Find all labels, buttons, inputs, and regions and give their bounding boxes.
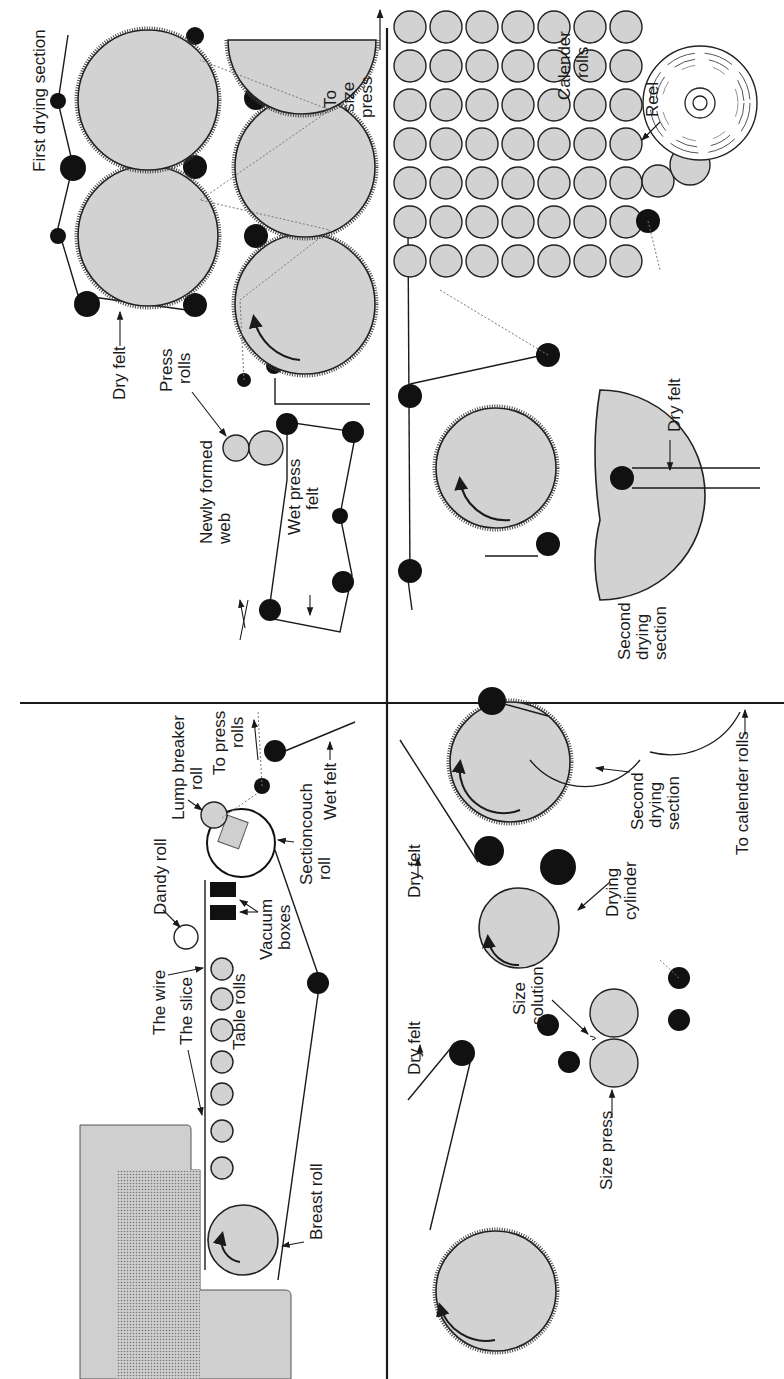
calender-roll (394, 128, 426, 160)
label-first-drying-section: First drying section (30, 29, 49, 172)
label-the-wire: The wire (150, 970, 169, 1035)
label-size-solution-2: solution (528, 966, 547, 1025)
dryer-cylinder (235, 234, 375, 374)
reel-drum (642, 165, 674, 197)
dandy-roll (174, 925, 198, 949)
label-to-calender: To calender rolls (733, 731, 752, 855)
label-wet-felt: Wet felt (321, 762, 340, 820)
label-to-size-1: To (321, 90, 340, 108)
calender-roll (394, 245, 426, 277)
label-second-drying-3: section (651, 606, 670, 660)
press-roll (223, 435, 249, 461)
table-roll (211, 1157, 233, 1179)
dryer-cylinder (235, 97, 375, 237)
calender-roll (394, 167, 426, 199)
label-reel: Reel (643, 82, 662, 117)
size-press-group (400, 687, 740, 1353)
label-wet-press-felt-2: felt (303, 487, 322, 510)
lump-breaker-roll (201, 802, 227, 828)
label-drying-cylinder-2: cylinder (621, 861, 640, 920)
label-to-size-2: size (339, 82, 358, 112)
table-roll (211, 1083, 233, 1105)
label-table-rolls: Table rolls (230, 973, 249, 1050)
label-second-drying-b1: Second (628, 772, 647, 830)
table-roll (211, 1120, 233, 1142)
size-press-roll (590, 989, 638, 1037)
dryer-cylinder (436, 1231, 556, 1351)
label-dry-felt-right: Dry felt (665, 378, 684, 432)
label-newly-formed-1: Newly formed (197, 440, 216, 544)
diagram-canvas: First drying section Dry felt Press roll… (0, 0, 784, 1379)
felt-roll-icon (183, 293, 207, 317)
dryer-cylinder (78, 166, 218, 306)
vacuum-box (210, 905, 236, 920)
label-dry-felt-a: Dry felt (405, 1021, 424, 1075)
label-to-press-2: rolls (228, 717, 247, 748)
label-vacuum-2: boxes (275, 905, 294, 950)
label-the-slice: The slice (177, 977, 196, 1045)
label-drying-cylinder-1: Drying (603, 868, 622, 917)
label-section-couch-1: Sectioncouch (297, 783, 316, 885)
label-vacuum-1: Vacuum (257, 899, 276, 960)
label-press-rolls-2: rolls (175, 353, 194, 384)
calender-roll (394, 89, 426, 121)
calender-roll (394, 11, 426, 43)
label-size-solution-1: Size (510, 982, 529, 1015)
felt-roll-icon (60, 155, 86, 181)
label-wet-press-felt-1: Wet press (285, 459, 304, 535)
label-lump-breaker-2: roll (187, 767, 206, 790)
calender-roll (394, 206, 426, 238)
label-dandy-roll: Dandy roll (151, 838, 170, 915)
label-second-drying-2: drying (633, 614, 652, 660)
label-breast-roll: Breast roll (307, 1163, 326, 1240)
breast-roll (208, 1205, 278, 1275)
size-press-roll (590, 1039, 638, 1087)
dryer-cylinder (436, 408, 556, 528)
label-to-press-1: To press (210, 711, 229, 775)
label-second-drying-1: Second (615, 602, 634, 660)
label-calender-2: rolls (573, 47, 592, 78)
drying-cylinder (479, 888, 559, 968)
label-newly-formed-2: web (215, 513, 234, 545)
label-size-press: Size press (597, 1111, 616, 1190)
label-lump-breaker-1: Lump breaker (169, 715, 188, 820)
label-second-drying-b2: drying (646, 782, 665, 828)
felt-roll-icon (74, 291, 100, 317)
dry-end-group (394, 11, 760, 610)
dryer-cylinder (450, 702, 570, 822)
paper-machine-diagram: First drying section Dry felt Press roll… (0, 0, 784, 1379)
label-dry-felt: Dry felt (110, 346, 129, 400)
felt-roll-icon (50, 228, 66, 244)
label-calender-1: Calender (555, 31, 574, 100)
label-dry-felt-b: Dry felt (405, 844, 424, 898)
label-second-drying-b3: section (664, 776, 683, 830)
label-press-rolls-1: Press (157, 349, 176, 392)
calender-roll (394, 50, 426, 82)
label-section-couch-2: roll (315, 857, 334, 880)
label-to-size-3: press (357, 76, 376, 118)
dryer-cylinder (78, 30, 218, 170)
table-roll (211, 1051, 233, 1073)
vacuum-box (210, 882, 236, 897)
press-roll (249, 431, 283, 465)
felt-roll-icon (50, 93, 66, 109)
